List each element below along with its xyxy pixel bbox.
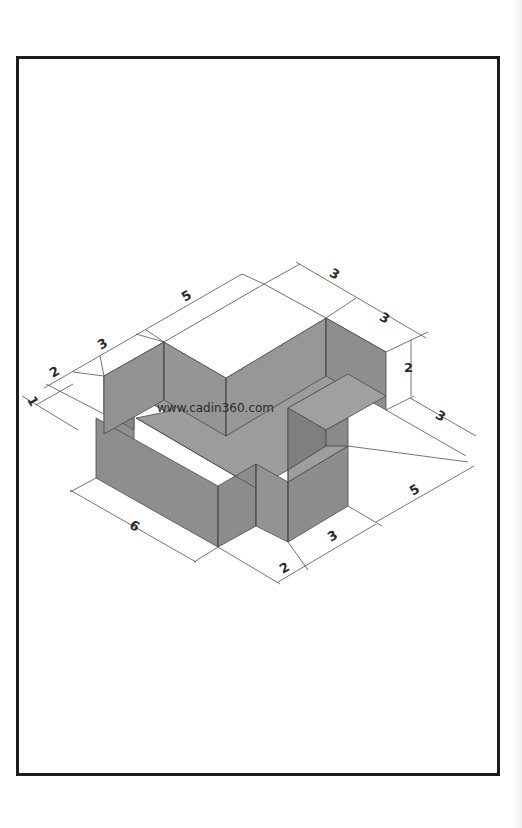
solid-body (96, 284, 386, 547)
dim-bottom-2: 2 (277, 559, 292, 577)
dim-right-3: 3 (433, 407, 448, 425)
dim-right-5: 5 (407, 481, 422, 499)
dim-top-3-left: 3 (95, 335, 110, 353)
dim-top-5: 5 (179, 287, 194, 305)
watermark-text: www.cadin360.com (157, 401, 274, 415)
isometric-drawing: 1 2 3 5 3 3 2 3 5 3 2 6 www.cadin360.com (0, 0, 522, 828)
front-step-left-face (218, 464, 256, 547)
dim-top-3-right-a: 3 (327, 265, 342, 283)
dim-top-3-right-b: 3 (377, 309, 392, 327)
dim-left-2: 2 (47, 363, 62, 381)
dim-right-height-2: 2 (404, 360, 413, 375)
front-step-right-face (256, 464, 288, 542)
dim-bottom-3: 3 (325, 527, 340, 545)
dim-bottom-6: 6 (127, 517, 142, 535)
